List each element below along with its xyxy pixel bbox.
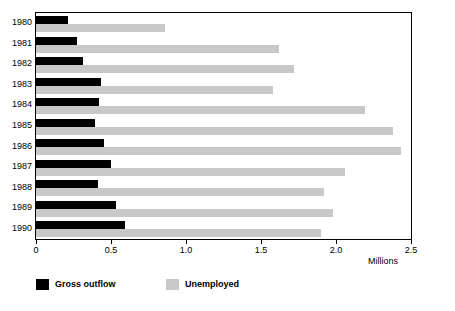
y-axis-label-1983: 1983 — [0, 80, 32, 89]
bars-container — [36, 13, 411, 239]
bar-gross-outflow-1986 — [36, 139, 104, 147]
bar-group-1980 — [36, 13, 411, 34]
bar-group-1986 — [36, 136, 411, 157]
x-axis-tick-label-4: 2.0 — [330, 245, 343, 255]
y-axis-label-1980: 1980 — [0, 18, 32, 27]
bar-unemployed-1987 — [36, 168, 345, 176]
legend-item-gross-outflow: Gross outflow — [36, 277, 116, 291]
x-axis-tick-4 — [336, 240, 337, 244]
bar-group-1983 — [36, 75, 411, 96]
y-axis-label-1986: 1986 — [0, 142, 32, 151]
x-axis-title: Millions — [368, 256, 398, 266]
x-axis-tick-5 — [411, 240, 412, 244]
bar-unemployed-1986 — [36, 147, 401, 155]
bar-gross-outflow-1987 — [36, 160, 111, 168]
bar-group-1984 — [36, 95, 411, 116]
y-axis-label-1989: 1989 — [0, 203, 32, 212]
x-axis-tick-label-1: 0.5 — [105, 245, 118, 255]
bar-group-1987 — [36, 157, 411, 178]
y-axis-label-1988: 1988 — [0, 183, 32, 192]
bar-gross-outflow-1982 — [36, 57, 83, 65]
y-axis-label-1987: 1987 — [0, 162, 32, 171]
y-axis-label-1984: 1984 — [0, 100, 32, 109]
legend-label: Unemployed — [185, 279, 239, 289]
bar-gross-outflow-1983 — [36, 78, 101, 86]
bar-gross-outflow-1985 — [36, 119, 95, 127]
y-axis-label-1990: 1990 — [0, 224, 32, 233]
x-axis-tick-label-2: 1.0 — [180, 245, 193, 255]
x-axis-tick-1 — [111, 240, 112, 244]
bar-unemployed-1985 — [36, 127, 393, 135]
x-axis-tick-0 — [36, 240, 37, 244]
bar-group-1981 — [36, 34, 411, 55]
y-axis-label-1982: 1982 — [0, 59, 32, 68]
x-axis-tick-label-5: 2.5 — [405, 245, 418, 255]
bar-unemployed-1980 — [36, 24, 165, 32]
legend-swatch-icon — [36, 279, 49, 290]
x-axis-tick-3 — [261, 240, 262, 244]
bar-unemployed-1982 — [36, 65, 294, 73]
bar-gross-outflow-1981 — [36, 37, 77, 45]
x-axis-tick-label-3: 1.5 — [255, 245, 268, 255]
bar-unemployed-1983 — [36, 86, 273, 94]
bar-unemployed-1989 — [36, 209, 333, 217]
x-axis: 00.51.01.52.02.5 — [35, 240, 412, 262]
y-axis-labels: 1980198119821983198419851986198719881989… — [0, 13, 32, 239]
bar-unemployed-1988 — [36, 188, 324, 196]
bar-chart: 1980198119821983198419851986198719881989… — [0, 0, 455, 311]
bar-unemployed-1981 — [36, 45, 279, 53]
bar-gross-outflow-1989 — [36, 201, 116, 209]
legend-label: Gross outflow — [55, 279, 116, 289]
bar-group-1989 — [36, 198, 411, 219]
bar-group-1990 — [36, 218, 411, 239]
y-axis-label-1985: 1985 — [0, 121, 32, 130]
bar-unemployed-1990 — [36, 229, 321, 237]
legend-swatch-icon — [166, 279, 179, 290]
bar-group-1988 — [36, 177, 411, 198]
y-axis-label-1981: 1981 — [0, 39, 32, 48]
x-axis-tick-2 — [186, 240, 187, 244]
bar-unemployed-1984 — [36, 106, 365, 114]
x-axis-tick-label-0: 0 — [33, 245, 38, 255]
bar-group-1985 — [36, 116, 411, 137]
bar-group-1982 — [36, 54, 411, 75]
bar-gross-outflow-1988 — [36, 180, 98, 188]
bar-gross-outflow-1990 — [36, 221, 125, 229]
legend-item-unemployed: Unemployed — [166, 277, 239, 291]
bar-gross-outflow-1980 — [36, 16, 68, 24]
bar-gross-outflow-1984 — [36, 98, 99, 106]
